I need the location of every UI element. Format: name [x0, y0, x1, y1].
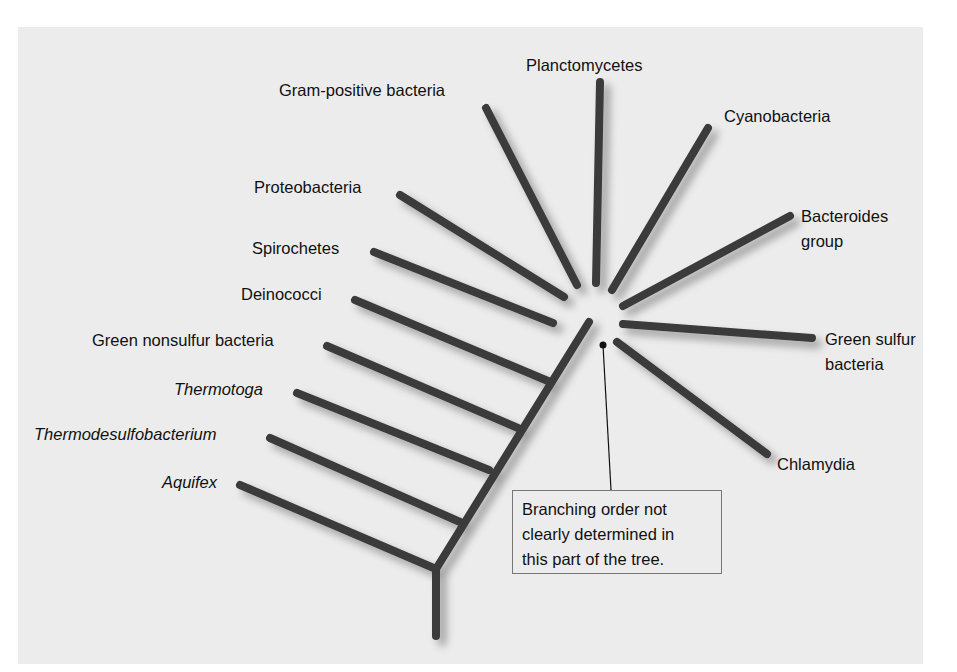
branch-chlamydia: [617, 342, 767, 454]
label-aquifex: Aquifex: [162, 472, 217, 492]
label-green-sulfur: Green sulfur bacteria: [825, 327, 945, 377]
label-spirochetes: Spirochetes: [252, 238, 339, 258]
label-bacteroides-line1: Bacteroides: [801, 207, 888, 225]
callout-line-1: Branching order not: [522, 497, 721, 522]
callout-pointer: [603, 345, 611, 490]
callout-line-2: clearly determined in: [522, 522, 721, 547]
label-thermotoga: Thermotoga: [174, 379, 263, 399]
label-cyanobacteria: Cyanobacteria: [724, 106, 830, 126]
branch-spirochetes: [374, 252, 553, 323]
label-green-sulfur-line2: bacteria: [825, 355, 884, 373]
label-thermodesulfobacterium: Thermodesulfobacterium: [34, 424, 217, 444]
label-green-nonsulfur: Green nonsulfur bacteria: [92, 330, 274, 350]
label-green-sulfur-line1: Green sulfur: [825, 330, 916, 348]
label-chlamydia: Chlamydia: [777, 454, 855, 474]
branch-planctomycetes: [596, 82, 600, 283]
label-bacteroides-line2: group: [801, 232, 843, 250]
label-planctomycetes: Planctomycetes: [526, 55, 642, 75]
label-proteobacteria: Proteobacteria: [254, 177, 361, 197]
callout-box: Branching order not clearly determined i…: [512, 490, 722, 574]
label-deinococci: Deinococci: [241, 284, 322, 304]
label-bacteroides: Bacteroides group: [801, 204, 911, 254]
callout-line-3: this part of the tree.: [522, 547, 721, 572]
branch-green-sulfur: [623, 324, 812, 338]
label-gram-positive: Gram-positive bacteria: [279, 80, 445, 100]
